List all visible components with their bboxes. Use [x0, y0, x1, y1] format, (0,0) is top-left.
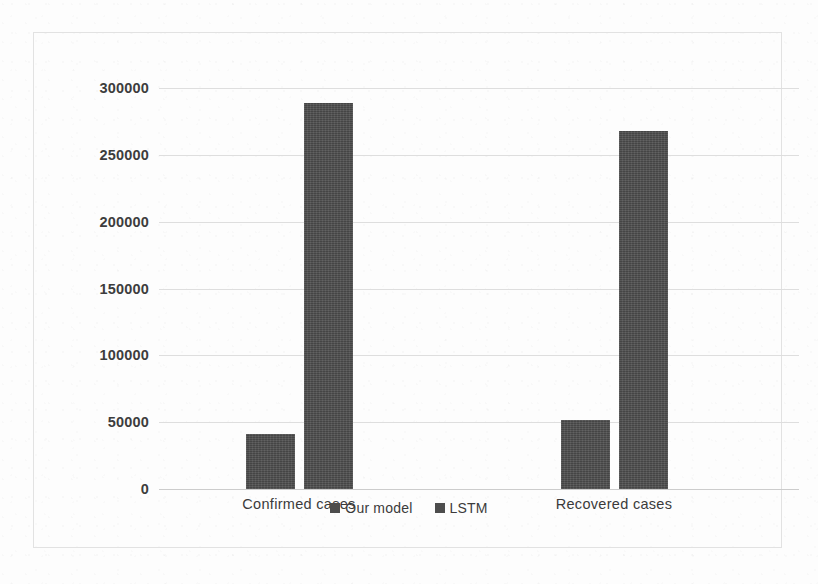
axis-baseline	[159, 489, 799, 490]
bar[interactable]	[561, 420, 610, 490]
y-axis-tick-label: 0	[61, 481, 149, 497]
chart-frame: 050000100000150000200000250000300000 Con…	[33, 32, 782, 548]
legend-label: LSTM	[450, 500, 488, 516]
y-axis-tick-label: 50000	[61, 414, 149, 430]
plot-area	[159, 88, 799, 489]
legend-swatch-icon	[435, 503, 445, 513]
y-axis-tick-label: 250000	[61, 147, 149, 163]
gridline	[159, 88, 799, 89]
gridline	[159, 289, 799, 290]
chart-legend: Our modelLSTM	[0, 500, 818, 516]
gridline	[159, 422, 799, 423]
gridline	[159, 355, 799, 356]
y-axis-tick-label: 150000	[61, 281, 149, 297]
bar[interactable]	[246, 434, 295, 489]
y-axis: 050000100000150000200000250000300000	[54, 88, 149, 489]
legend-item[interactable]: Our model	[330, 500, 412, 516]
legend-label: Our model	[345, 500, 412, 516]
gridline	[159, 155, 799, 156]
legend-swatch-icon	[330, 503, 340, 513]
legend-item[interactable]: LSTM	[435, 500, 488, 516]
y-axis-tick-label: 200000	[61, 214, 149, 230]
y-axis-tick-label: 100000	[61, 347, 149, 363]
bar[interactable]	[304, 103, 353, 489]
gridline	[159, 222, 799, 223]
y-axis-tick-label: 300000	[61, 80, 149, 96]
bar[interactable]	[619, 131, 668, 489]
